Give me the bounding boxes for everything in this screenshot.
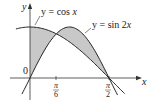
cos-label-leader (35, 16, 40, 25)
sin2x-curve-label: y = sin 2x (92, 19, 132, 30)
area-between-curves-figure: y = cos x y = sin 2x y x 0 π 6 π 2 (0, 0, 153, 105)
origin-label: 0 (23, 65, 28, 76)
sin-label-leader (85, 28, 91, 33)
x-axis-label: x (141, 76, 147, 87)
y-axis-label: y (21, 1, 27, 12)
tick-label-pi-2-denominator: 2 (106, 90, 110, 99)
tick-label-pi-6-denominator: 6 (54, 90, 58, 99)
y-axis-arrow-icon (28, 3, 32, 9)
cos-curve-label: y = cos x (41, 6, 77, 17)
tick-label-pi-2-numerator: π (106, 81, 111, 90)
tick-label-pi-6-numerator: π (54, 81, 59, 90)
